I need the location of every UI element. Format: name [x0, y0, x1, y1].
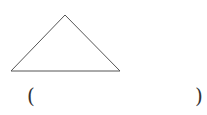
answer-blank[interactable]	[40, 86, 190, 106]
left-paren: (	[27, 84, 35, 108]
triangle-shape	[11, 15, 120, 71]
right-paren: )	[195, 84, 203, 108]
